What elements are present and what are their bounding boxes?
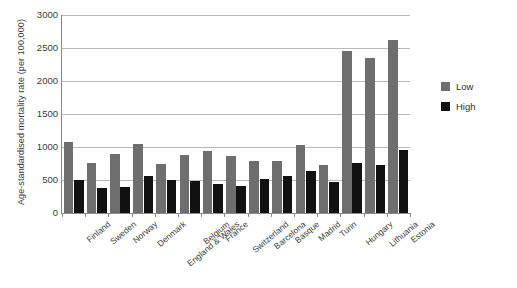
x-axis-tick [364,213,365,217]
legend-swatch-icon [441,102,450,111]
x-axis-tick [224,213,225,217]
y-axis-tick-label: 2500 [22,43,58,53]
bar-high [144,176,154,213]
x-axis-tick [178,213,179,217]
bar-low [110,154,120,213]
bar-low [87,163,97,213]
bar-group [294,15,317,213]
x-axis-tick [108,213,109,217]
bar-low [226,156,236,213]
x-axis-tick [317,213,318,217]
bar-group [317,15,340,213]
bar-group [62,15,85,213]
legend-item: Low [441,78,511,94]
x-axis-line [62,213,410,214]
bar-high [120,187,130,213]
x-axis-tick [248,213,249,217]
bar-group [248,15,271,213]
y-axis-tick-label: 1500 [22,109,58,119]
y-axis-tick-label: 2000 [22,76,58,86]
bar-high [190,181,200,213]
legend-swatch-icon [441,82,450,91]
x-axis-label: Sweden [108,219,138,246]
bar-group [85,15,108,213]
bar-high [213,184,223,213]
chart-figure: Age-standardised mortality rate (per 100… [0,0,517,288]
x-axis-tick [132,213,133,217]
bar-high [352,163,362,213]
bar-low [272,161,282,213]
bar-low [365,58,375,213]
bar-low [249,161,259,213]
bar-high [236,186,246,213]
bar-low [156,164,166,214]
bar-high [97,188,107,213]
bar-high [399,150,409,213]
bar-low [64,142,74,213]
bar-low [319,165,329,213]
bar-group [178,15,201,213]
plot-area [62,15,410,213]
bar-group [224,15,247,213]
y-axis-tick-label: 0 [22,208,58,218]
bar-group [387,15,410,213]
bar-group [132,15,155,213]
bar-group [340,15,363,213]
x-axis-tick [271,213,272,217]
bar-high [283,176,293,213]
x-axis-tick [62,213,63,217]
x-axis-tick [387,213,388,217]
bar-low [133,144,143,213]
chart-legend: LowHigh [441,78,511,118]
x-axis-tick [410,213,411,217]
x-axis-label: Turin [337,219,358,239]
x-axis-tick [294,213,295,217]
legend-label: Low [456,81,473,92]
y-axis-tick-label: 3000 [22,10,58,20]
x-axis-tick [201,213,202,217]
bar-low [203,151,213,213]
bar-group [155,15,178,213]
legend-label: High [456,101,476,112]
x-axis-label: Denmark [155,219,188,249]
bar-high [260,179,270,213]
bar-high [74,180,84,213]
bar-group [364,15,387,213]
bar-low [180,155,190,213]
bar-high [167,180,177,213]
x-axis-label: Finland [84,219,112,245]
x-axis-tick [340,213,341,217]
bar-group [271,15,294,213]
bar-high [306,171,316,213]
bar-low [388,40,398,213]
legend-item: High [441,98,511,114]
bar-low [296,145,306,213]
bar-group [108,15,131,213]
y-axis-tick-label: 1000 [22,142,58,152]
y-axis-tick-label: 500 [22,175,58,185]
y-axis-tick-labels: 300025002000150010005000 [18,15,58,213]
bar-high [329,182,339,213]
bar-group [201,15,224,213]
bar-high [376,165,386,213]
x-axis-tick [85,213,86,217]
bar-low [342,51,352,213]
x-axis-tick [155,213,156,217]
